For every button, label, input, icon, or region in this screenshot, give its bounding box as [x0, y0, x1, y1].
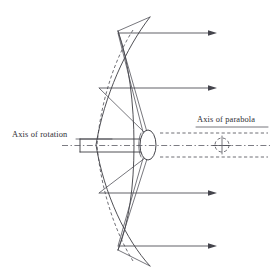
reflected-ray-top — [118, 31, 147, 132]
axis-of-parabola-group — [160, 133, 268, 157]
axis-of-rotation-label: Axis of rotation — [12, 130, 68, 139]
feed-hub-ellipse — [140, 130, 156, 160]
ray-3 — [99, 190, 217, 196]
incoming-ray-group — [99, 30, 217, 249]
ray-1-arrowhead — [208, 30, 217, 36]
feed-hub-group — [139, 130, 156, 160]
reflected-ray-upper — [99, 88, 145, 133]
ray-2-arrowhead — [208, 85, 217, 91]
reflected-ray-group — [99, 31, 147, 250]
ray-1 — [118, 30, 217, 36]
ray-3-arrowhead — [208, 190, 217, 196]
ray-4-arrowhead — [208, 243, 217, 249]
reflected-ray-bottom — [118, 159, 147, 250]
axis-of-parabola-label: Axis of parabola — [197, 115, 255, 124]
parabolic-dish-diagram: Axis of rotation Axis of parabola — [0, 0, 277, 274]
rim-chord-bottom — [118, 250, 150, 266]
ray-2 — [99, 85, 217, 91]
diagram-root: Axis of rotation Axis of parabola — [0, 0, 277, 274]
reflected-ray-top-inner — [118, 33, 144, 136]
